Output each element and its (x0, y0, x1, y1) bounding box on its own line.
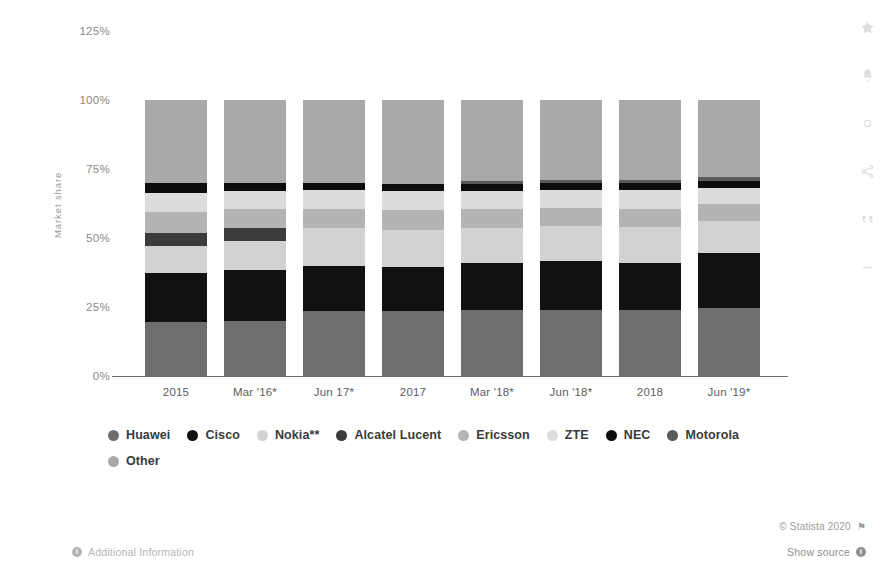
legend-item-nokia[interactable]: Nokia** (257, 428, 319, 442)
bar-Mar18[interactable] (461, 100, 523, 376)
segment-nokia[interactable] (461, 228, 523, 263)
gear-icon[interactable] (858, 114, 876, 132)
segment-zte[interactable] (461, 191, 523, 209)
stacked-bars-plot (145, 100, 780, 376)
segment-zte[interactable] (540, 190, 602, 208)
segment-zte[interactable] (224, 191, 286, 209)
additional-information-link[interactable]: i Additional Information (72, 546, 194, 558)
segment-alcatellucent[interactable] (224, 228, 286, 240)
segment-cisco[interactable] (224, 270, 286, 321)
chart-canvas: Market share 0%25%50%75%100%125% 2015Mar… (0, 0, 820, 420)
segment-ericsson[interactable] (382, 210, 444, 229)
bar-Mar16[interactable] (224, 100, 286, 376)
segment-cisco[interactable] (619, 263, 681, 310)
segment-huawei[interactable] (698, 308, 760, 376)
segment-cisco[interactable] (540, 261, 602, 309)
segment-cisco[interactable] (382, 267, 444, 311)
segment-other[interactable] (303, 100, 365, 183)
legend-item-alcatellucent[interactable]: Alcatel Lucent (336, 428, 441, 442)
show-source-link[interactable]: Show source i (787, 546, 866, 558)
x-tick-Mar16: Mar '16* (210, 386, 300, 398)
segment-other[interactable] (145, 100, 207, 183)
segment-other[interactable] (382, 100, 444, 184)
additional-information-label: Additional Information (88, 546, 194, 558)
segment-huawei[interactable] (224, 321, 286, 376)
y-axis-tick-labels: 0%25%50%75%100%125% (28, 0, 110, 420)
segment-ericsson[interactable] (540, 208, 602, 226)
segment-zte[interactable] (619, 190, 681, 209)
segment-cisco[interactable] (698, 253, 760, 308)
segment-nokia[interactable] (145, 246, 207, 272)
star-icon[interactable] (858, 18, 876, 36)
legend-item-huawei[interactable]: Huawei (108, 428, 170, 442)
segment-huawei[interactable] (382, 311, 444, 376)
segment-other[interactable] (540, 100, 602, 180)
bar-Jun17[interactable] (303, 100, 365, 376)
bar-Jun18[interactable] (540, 100, 602, 376)
segment-ericsson[interactable] (303, 209, 365, 228)
y-tick-0pct: 0% (50, 370, 110, 382)
segment-nec[interactable] (540, 183, 602, 190)
segment-other[interactable] (619, 100, 681, 180)
legend-item-zte[interactable]: ZTE (547, 428, 589, 442)
segment-nec[interactable] (224, 183, 286, 191)
segment-other[interactable] (461, 100, 523, 181)
segment-nec[interactable] (461, 184, 523, 191)
segment-nec[interactable] (619, 183, 681, 190)
link-icon[interactable] (858, 258, 876, 276)
legend-swatch-icon (108, 430, 119, 441)
quote-icon[interactable] (858, 210, 876, 228)
segment-zte[interactable] (382, 191, 444, 210)
copyright-text: © Statista 2020 (779, 521, 851, 532)
segment-nokia[interactable] (619, 227, 681, 263)
legend-row-primary: HuaweiCiscoNokia**Alcatel LucentEricsson… (108, 428, 756, 442)
legend-item-other[interactable]: Other (108, 454, 160, 468)
legend-swatch-icon (257, 430, 268, 441)
legend-swatch-icon (458, 430, 469, 441)
bar-2015[interactable] (145, 100, 207, 376)
bell-icon[interactable] (858, 66, 876, 84)
segment-nec[interactable] (145, 183, 207, 193)
segment-cisco[interactable] (145, 273, 207, 323)
bar-2017[interactable] (382, 100, 444, 376)
segment-cisco[interactable] (461, 263, 523, 310)
segment-nec[interactable] (303, 183, 365, 190)
x-tick-Jun17: Jun 17* (289, 386, 379, 398)
legend-swatch-icon (606, 430, 617, 441)
segment-other[interactable] (224, 100, 286, 183)
segment-huawei[interactable] (145, 322, 207, 376)
bar-Jun19[interactable] (698, 100, 760, 376)
segment-huawei[interactable] (619, 310, 681, 376)
share-icon[interactable] (858, 162, 876, 180)
segment-ericsson[interactable] (461, 209, 523, 228)
segment-nec[interactable] (382, 184, 444, 191)
segment-ericsson[interactable] (698, 204, 760, 222)
segment-zte[interactable] (303, 190, 365, 209)
info-icon: i (856, 547, 866, 557)
legend-label: Ericsson (476, 428, 530, 442)
segment-ericsson[interactable] (619, 209, 681, 227)
segment-nokia[interactable] (698, 221, 760, 253)
segment-nokia[interactable] (382, 230, 444, 267)
segment-huawei[interactable] (540, 310, 602, 376)
y-tick-125pct: 125% (50, 25, 110, 37)
segment-ericsson[interactable] (145, 212, 207, 233)
segment-nokia[interactable] (540, 226, 602, 262)
segment-ericsson[interactable] (224, 209, 286, 228)
flag-icon[interactable]: ⚑ (857, 521, 866, 532)
segment-cisco[interactable] (303, 266, 365, 312)
segment-other[interactable] (698, 100, 760, 177)
legend-item-cisco[interactable]: Cisco (187, 428, 240, 442)
segment-alcatellucent[interactable] (145, 233, 207, 247)
legend-item-nec[interactable]: NEC (606, 428, 651, 442)
legend-item-motorola[interactable]: Motorola (667, 428, 739, 442)
segment-zte[interactable] (145, 193, 207, 212)
bar-2018[interactable] (619, 100, 681, 376)
segment-zte[interactable] (698, 188, 760, 203)
segment-nec[interactable] (698, 181, 760, 188)
segment-nokia[interactable] (303, 228, 365, 265)
segment-huawei[interactable] (303, 311, 365, 376)
legend-item-ericsson[interactable]: Ericsson (458, 428, 530, 442)
segment-huawei[interactable] (461, 310, 523, 376)
segment-nokia[interactable] (224, 241, 286, 270)
